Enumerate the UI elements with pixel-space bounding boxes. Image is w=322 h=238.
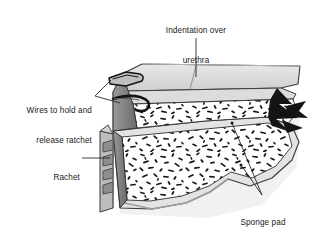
ratchet-strip xyxy=(100,125,113,212)
figure-canvas: Indentation over urethra Wires to hold a… xyxy=(0,0,322,238)
label-indentation-line2: urethra xyxy=(146,56,246,66)
label-sponge-pad: Sponge pad xyxy=(215,198,311,238)
label-rachet: Rachet xyxy=(10,153,80,203)
label-sponge-text: Sponge pad xyxy=(215,218,311,228)
leader-wires-a xyxy=(95,80,111,96)
label-rachet-text: Rachet xyxy=(10,173,80,183)
label-wires-line1: Wires to hold and xyxy=(2,106,92,116)
label-wires-line2: release ratchet xyxy=(2,136,92,146)
label-indentation-over-urethra: Indentation over urethra xyxy=(146,6,246,86)
label-indentation-line1: Indentation over xyxy=(146,26,246,36)
